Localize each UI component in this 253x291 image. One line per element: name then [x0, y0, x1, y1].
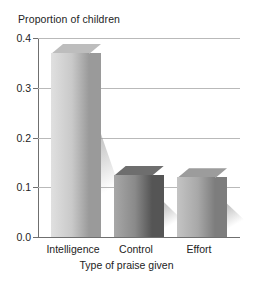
y-axis-title: Proportion of children	[18, 13, 120, 25]
x-tick-label: Effort	[187, 243, 212, 255]
bar-side-face	[89, 53, 101, 237]
bar	[51, 53, 89, 237]
bar	[114, 175, 152, 237]
y-tick-label: 0.1	[8, 181, 31, 193]
bar-front-face	[177, 177, 215, 237]
plot-area	[38, 38, 240, 237]
y-tick-label: 0.4	[8, 32, 31, 44]
bar-side-face	[215, 177, 227, 237]
bar	[177, 177, 215, 237]
gridline	[38, 237, 240, 238]
x-tick-label: Control	[119, 243, 153, 255]
y-tick-label: 0.2	[8, 132, 31, 144]
bar-front-face	[114, 175, 152, 237]
x-axis-title: Type of praise given	[0, 259, 253, 271]
y-tick-label: 0.0	[8, 231, 31, 243]
bar-front-face	[51, 53, 89, 237]
bar-side-face	[152, 175, 164, 237]
y-tick-label: 0.3	[8, 82, 31, 94]
bar-chart: Proportion of children 0.40.30.20.10.0 I…	[0, 0, 253, 291]
gridline	[38, 38, 240, 39]
x-tick-label: Intelligence	[46, 243, 99, 255]
